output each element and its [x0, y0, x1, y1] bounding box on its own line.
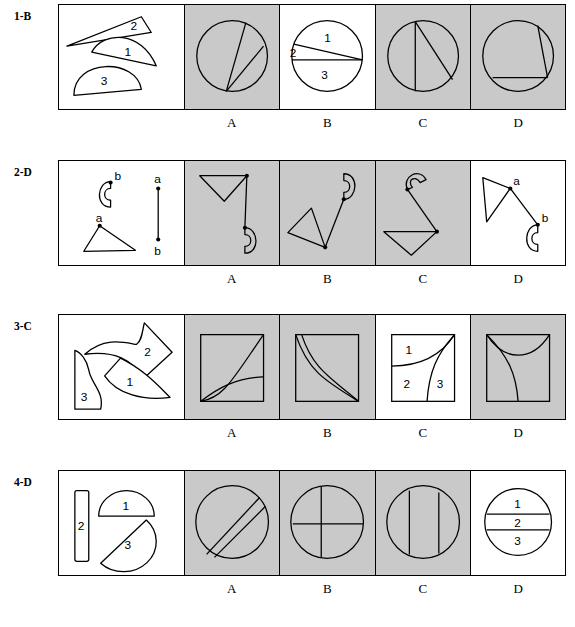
q4-option-d[interactable]: 1 2 3 [471, 471, 565, 575]
q3-option-c-region-2: 2 [403, 377, 410, 390]
q3-option-b[interactable] [280, 315, 375, 419]
question-label-2: 2-D [14, 166, 32, 178]
q2-option-letters: A B C D [58, 268, 566, 292]
question-label-4: 4-D [14, 476, 32, 488]
q2-stem-panel: b a a b [59, 161, 185, 265]
q1-option-b-region-3: 3 [321, 68, 328, 81]
q4-letter-c: C [375, 578, 471, 602]
worksheet-page: 1-B 2 1 3 [0, 0, 575, 627]
q1-option-d[interactable] [471, 5, 565, 109]
q3-stem-panel: 2 1 3 [59, 315, 185, 419]
q3-option-letters: A B C D [58, 422, 566, 446]
q3-option-a[interactable] [185, 315, 280, 419]
q2-option-c[interactable] [376, 161, 471, 265]
q2-option-d[interactable]: a b [471, 161, 565, 265]
q4-option-d-region-3: 3 [514, 534, 521, 547]
q4-stem-piece-3-label: 3 [124, 539, 131, 553]
q1-option-a[interactable] [185, 5, 280, 109]
q4-stem-panel: 2 1 3 [59, 471, 185, 575]
q1-letter-b: B [280, 112, 376, 136]
q2-letter-a: A [184, 268, 280, 292]
question-label-1: 1-B [14, 10, 31, 22]
q1-stem-piece-2-label: 2 [130, 20, 137, 34]
q1-option-b[interactable]: 1 2 3 [280, 5, 375, 109]
q1-letter-a: A [184, 112, 280, 136]
q2-letters-spacer [58, 268, 184, 292]
q4-letters-spacer [58, 578, 184, 602]
q1-letter-d: D [471, 112, 567, 136]
q4-stem-piece-1-label: 1 [122, 499, 129, 513]
question-strip-1: 2 1 3 [58, 4, 566, 110]
q3-option-c[interactable]: 1 2 3 [376, 315, 471, 419]
q1-option-c[interactable] [376, 5, 471, 109]
q4-option-a[interactable] [185, 471, 280, 575]
q1-stem-panel: 2 1 3 [59, 5, 185, 109]
q3-letter-c: C [375, 422, 471, 446]
question-strip-2: b a a b [58, 160, 566, 266]
q4-letter-d: D [471, 578, 567, 602]
q3-letter-b: B [280, 422, 376, 446]
q4-option-letters: A B C D [58, 578, 566, 602]
q4-option-c[interactable] [376, 471, 471, 575]
q3-letter-d: D [471, 422, 567, 446]
q2-letter-b: B [280, 268, 376, 292]
q2-letter-c: C [375, 268, 471, 292]
q2-stem-connector-label-b: b [154, 244, 161, 258]
q3-option-c-region-3: 3 [436, 377, 443, 390]
q2-option-d-label-b: b [541, 211, 548, 224]
q4-letter-a: A [184, 578, 280, 602]
q2-stem-connector-label-a: a [154, 172, 161, 186]
q1-stem-piece-3-label: 3 [101, 75, 108, 89]
q4-option-b[interactable] [280, 471, 375, 575]
q1-option-b-region-1: 1 [324, 31, 331, 44]
q3-option-d[interactable] [471, 315, 565, 419]
q2-option-d-label-a: a [513, 174, 520, 187]
question-label-3: 3-C [14, 320, 32, 332]
q2-option-b[interactable] [280, 161, 375, 265]
q4-letter-b: B [280, 578, 376, 602]
q2-stem-label-a: a [96, 211, 103, 225]
q1-letter-c: C [375, 112, 471, 136]
q3-letter-a: A [184, 422, 280, 446]
q3-letters-spacer [58, 422, 184, 446]
question-strip-4: 2 1 3 [58, 470, 566, 576]
q1-option-letters: A B C D [58, 112, 566, 136]
q2-stem-label-b: b [115, 169, 122, 183]
q3-stem-piece-1-label: 1 [126, 375, 133, 389]
question-strip-3: 2 1 3 [58, 314, 566, 420]
q3-stem-piece-3-label: 3 [81, 390, 88, 404]
q1-stem-piece-1-label: 1 [124, 45, 131, 59]
q2-option-a[interactable] [185, 161, 280, 265]
q1-letters-spacer [58, 112, 184, 136]
q3-stem-piece-2-label: 2 [144, 345, 151, 359]
q1-option-b-region-2: 2 [290, 46, 297, 59]
q4-option-d-region-2: 2 [514, 516, 521, 529]
q4-stem-piece-2-label: 2 [78, 519, 85, 533]
q3-option-c-region-1: 1 [405, 343, 412, 356]
q4-option-d-region-1: 1 [514, 497, 521, 510]
q2-letter-d: D [471, 268, 567, 292]
